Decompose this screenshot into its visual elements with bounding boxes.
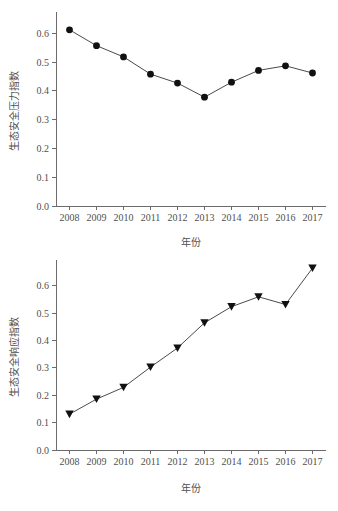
series-line — [70, 268, 313, 414]
x-tick-label: 2012 — [168, 212, 188, 223]
x-axis-title: 年份 — [181, 236, 201, 248]
data-point-marker — [92, 396, 100, 404]
y-tick-label: 0.6 — [37, 280, 50, 291]
x-tick-label: 2010 — [114, 456, 134, 467]
x-tick-label: 2013 — [195, 212, 215, 223]
series-line — [70, 30, 313, 97]
x-tick-label: 2008 — [60, 456, 80, 467]
x-tick-label: 2009 — [87, 212, 107, 223]
data-point-marker — [281, 301, 289, 309]
y-tick-label: 0.5 — [37, 57, 50, 68]
y-tick-label: 0.3 — [37, 362, 50, 373]
x-tick-label: 2012 — [168, 456, 188, 467]
y-tick-label: 0.5 — [37, 308, 50, 319]
data-point-marker — [93, 42, 100, 49]
x-tick-label: 2017 — [303, 456, 323, 467]
data-point-marker — [255, 67, 262, 74]
y-axis-title: 生态安全响应指数 — [8, 317, 20, 397]
data-point-marker — [282, 62, 289, 69]
data-point-marker — [173, 344, 181, 352]
x-tick-label: 2010 — [114, 212, 134, 223]
x-tick-label: 2015 — [249, 456, 269, 467]
data-point-marker — [66, 26, 73, 33]
x-tick-label: 2016 — [276, 456, 296, 467]
data-point-marker — [119, 384, 127, 392]
y-tick-label: 0.2 — [37, 390, 50, 401]
y-tick-label: 0.3 — [37, 114, 50, 125]
response-index-plot: 0.00.10.20.30.40.50.62008200920102011201… — [0, 250, 338, 511]
data-point-marker — [201, 94, 208, 101]
data-point-marker — [65, 411, 73, 419]
y-tick-label: 0.1 — [37, 172, 50, 183]
y-tick-label: 0.0 — [37, 201, 50, 212]
data-point-marker — [227, 303, 235, 311]
data-point-marker — [146, 364, 154, 372]
data-point-marker — [147, 71, 154, 78]
y-tick-label: 0.1 — [37, 417, 50, 428]
data-point-marker — [308, 265, 316, 273]
chart-response-index: 0.00.10.20.30.40.50.62008200920102011201… — [0, 250, 338, 511]
x-tick-label: 2013 — [195, 456, 215, 467]
y-axis-title: 生态安全压力指数 — [8, 71, 20, 151]
chart-pressure-index: 0.00.10.20.30.40.50.62008200920102011201… — [0, 0, 338, 250]
x-tick-label: 2014 — [222, 212, 242, 223]
pressure-index-plot: 0.00.10.20.30.40.50.62008200920102011201… — [0, 0, 338, 250]
data-point-marker — [174, 80, 181, 87]
y-tick-label: 0.4 — [37, 85, 50, 96]
y-tick-label: 0.0 — [37, 445, 50, 456]
x-tick-label: 2009 — [87, 456, 107, 467]
x-tick-label: 2011 — [141, 456, 161, 467]
x-tick-label: 2011 — [141, 212, 161, 223]
data-point-marker — [228, 79, 235, 86]
x-tick-label: 2008 — [60, 212, 80, 223]
x-axis-title: 年份 — [181, 482, 201, 494]
x-tick-label: 2017 — [303, 212, 323, 223]
x-tick-label: 2014 — [222, 456, 242, 467]
x-tick-label: 2015 — [249, 212, 269, 223]
y-tick-label: 0.2 — [37, 143, 50, 154]
x-tick-label: 2016 — [276, 212, 296, 223]
data-point-marker — [120, 53, 127, 60]
data-point-marker — [254, 293, 262, 301]
y-tick-label: 0.4 — [37, 335, 50, 346]
y-tick-label: 0.6 — [37, 28, 50, 39]
data-point-marker — [309, 70, 316, 77]
